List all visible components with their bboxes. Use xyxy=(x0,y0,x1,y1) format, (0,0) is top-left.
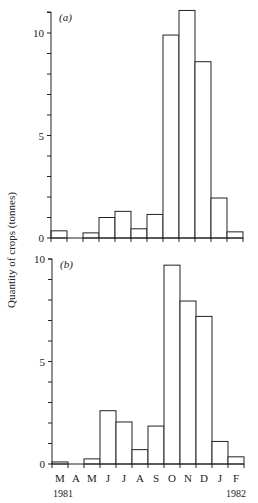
x-month-label: J xyxy=(106,472,111,484)
x-month-label: N xyxy=(184,472,192,484)
histogram-bar xyxy=(179,10,195,238)
histogram-bar xyxy=(148,426,164,464)
histogram-bar xyxy=(131,229,147,238)
histogram-bar xyxy=(116,422,132,464)
histogram-bar xyxy=(83,233,99,238)
panel-label: (b) xyxy=(60,258,73,271)
histogram-bar xyxy=(99,218,115,239)
x-month-label: A xyxy=(136,472,144,484)
y-tick-label: 5 xyxy=(40,356,46,368)
x-month-label: J xyxy=(122,472,127,484)
histogram-bar xyxy=(212,441,228,464)
histogram-bar xyxy=(195,62,211,238)
histogram-figure: 0510(a) 0510(b) MAMJJASONDJF19811982 xyxy=(0,0,258,503)
y-axis-label-container: Quantity of crops (tonnes) xyxy=(1,150,21,350)
histogram-bar xyxy=(115,211,131,238)
y-tick-label: 0 xyxy=(40,458,46,470)
y-tick-label: 10 xyxy=(33,27,45,39)
year-end-label: 1982 xyxy=(226,488,246,499)
histogram-bar xyxy=(84,459,100,464)
x-axis-month-labels: MAMJJASONDJF19811982 xyxy=(53,472,246,499)
y-tick-label: 0 xyxy=(39,232,45,244)
x-month-label: M xyxy=(55,472,65,484)
y-tick-label: 5 xyxy=(39,130,45,142)
histogram-bar xyxy=(227,232,243,238)
histogram-bar xyxy=(180,301,196,464)
histogram-bar xyxy=(163,35,179,238)
histogram-bar xyxy=(228,457,244,464)
histogram-bar xyxy=(196,316,212,464)
histogram-bar xyxy=(51,231,67,238)
panel-a-chart: 0510(a) xyxy=(33,10,243,244)
histogram-bar xyxy=(147,214,163,238)
x-month-label: M xyxy=(87,472,97,484)
histogram-bar xyxy=(211,198,227,238)
x-month-label: S xyxy=(153,472,159,484)
histogram-bar xyxy=(100,411,116,464)
x-month-label: D xyxy=(200,472,208,484)
x-month-label: A xyxy=(72,472,80,484)
year-start-label: 1981 xyxy=(53,488,73,499)
panel-label: (a) xyxy=(59,11,72,24)
histogram-bar xyxy=(132,450,148,464)
y-axis-label: Quantity of crops (tonnes) xyxy=(5,192,18,308)
y-tick-label: 10 xyxy=(34,253,46,265)
histogram-bar xyxy=(164,265,180,464)
x-month-label: F xyxy=(233,472,239,484)
x-month-label: O xyxy=(168,472,176,484)
panel-b-chart: 0510(b) xyxy=(34,253,244,470)
x-month-label: J xyxy=(218,472,223,484)
